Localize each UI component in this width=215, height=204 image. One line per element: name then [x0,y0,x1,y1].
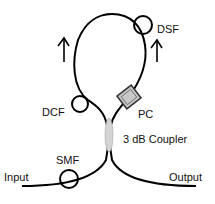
polarization-controller [117,85,141,109]
smf-coil [60,170,78,188]
coupler [105,118,113,152]
smf-label: SMF [56,154,80,166]
arrow-up-right-icon [151,40,162,62]
arrow-up-left-icon [58,38,69,62]
pc-label: PC [138,108,153,120]
fiber-loop-diagram: Input Output SMF DCF DSF PC 3 dB Coupler [0,0,215,204]
coupler-label: 3 dB Coupler [123,133,188,145]
output-label: Output [169,171,202,183]
input-label: Input [4,171,28,183]
dcf-coil [72,96,88,112]
dsf-label: DSF [157,23,179,35]
dcf-label: DCF [42,106,65,118]
